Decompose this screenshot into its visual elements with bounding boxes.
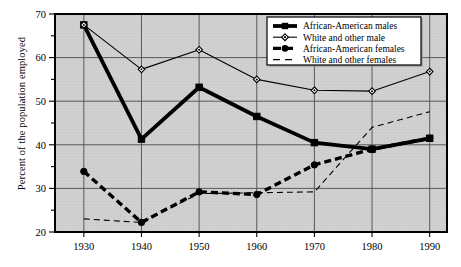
x-tick-labels: 1930194019501960197019801990: [73, 241, 440, 252]
y-tick-label: 50: [36, 96, 47, 107]
y-axis-title-container: Percent of the population employed: [0, 0, 24, 240]
figure-caption: [30, 258, 450, 267]
y-tick-label: 40: [36, 140, 47, 151]
legend-label: White and other females: [303, 55, 396, 65]
line-chart: 203040506070 193019401950196019701980199…: [0, 0, 461, 267]
x-tick-label: 1930: [73, 241, 94, 252]
y-tick-label: 30: [36, 183, 47, 194]
legend-label: African-American females: [303, 44, 405, 54]
x-tick-label: 1950: [189, 241, 210, 252]
y-tick-labels: 203040506070: [36, 9, 47, 238]
y-tick-label: 60: [36, 52, 47, 63]
x-tick-label: 1970: [304, 241, 325, 252]
x-tick-label: 1980: [362, 241, 383, 252]
x-tick-label: 1990: [419, 241, 440, 252]
y-tick-label: 20: [36, 227, 47, 238]
y-axis-title: Percent of the population employed: [16, 19, 27, 209]
legend-label: African-American males: [303, 21, 397, 31]
chart-legend: African-American malesWhite and other ma…: [267, 17, 423, 67]
x-tick-label: 1940: [131, 241, 152, 252]
x-tick-label: 1960: [246, 241, 267, 252]
legend-label: White and other male: [303, 33, 385, 43]
y-tick-label: 70: [36, 9, 47, 20]
chart-figure: Percent of the population employed 20304…: [0, 0, 461, 267]
